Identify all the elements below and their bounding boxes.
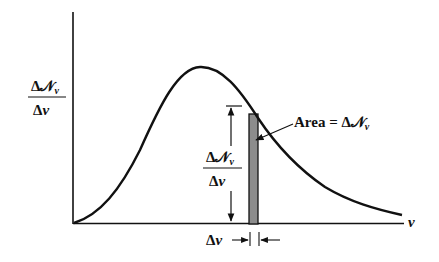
svg-text:Δv: Δv <box>33 102 49 118</box>
x-axis-label: v <box>408 214 415 230</box>
y-axis-label: Δ𝒩v Δv <box>28 78 66 118</box>
area-strip <box>249 114 258 224</box>
svg-text:Δ𝒩v: Δ𝒩v <box>31 78 59 96</box>
svg-text:Δ𝒩v: Δ𝒩v <box>206 149 234 167</box>
width-label: Δv <box>206 232 222 248</box>
strip-height-label: Δ𝒩v Δv <box>203 149 242 189</box>
distribution-diagram: Δ𝒩v Δv Δ𝒩v Δv Area = Δ𝒩v v Δv <box>0 0 439 262</box>
distribution-curve <box>74 67 402 223</box>
svg-text:Δv: Δv <box>209 173 225 189</box>
area-pointer <box>256 124 293 140</box>
area-label: Area = Δ𝒩v <box>294 114 370 132</box>
